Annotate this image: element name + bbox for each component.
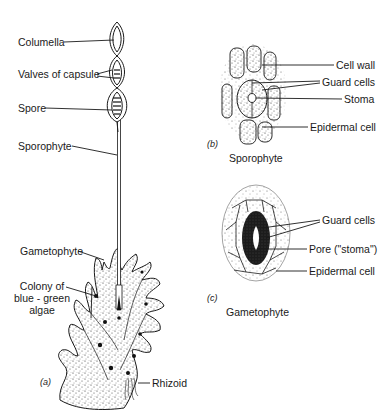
label-gametophyte: Gametophyte <box>20 245 83 257</box>
caption-c: (c) <box>207 293 218 303</box>
label-epidermal-cell-b: Epidermal cell <box>310 121 376 133</box>
label-colony-line2: blue - green <box>14 292 70 304</box>
label-stoma: Stoma <box>344 93 374 105</box>
label-sporophyte: Sporophyte <box>18 140 72 152</box>
label-pore-stoma: Pore ("stoma") <box>309 243 377 255</box>
label-rhizoid: Rhizoid <box>152 377 187 389</box>
gametophyte-epidermis <box>222 185 290 281</box>
label-colony-line1: Colony of <box>14 280 70 292</box>
hornwort-diagram <box>0 0 389 416</box>
capsule <box>107 22 127 132</box>
caption-b: (b) <box>207 139 218 149</box>
subtitle-gametophyte: Gametophyte <box>226 306 289 318</box>
label-valves-of-capsule: Valves of capsule <box>18 68 100 80</box>
label-spore: Spore <box>18 102 46 114</box>
gametophyte-thallus <box>59 248 164 410</box>
label-cell-wall: Cell wall <box>336 59 375 71</box>
label-colony-of-blue-green-algae: Colony of blue - green algae <box>14 280 70 316</box>
subtitle-sporophyte: Sporophyte <box>229 152 283 164</box>
label-colony-line3: algae <box>14 304 70 316</box>
label-columella: Columella <box>18 36 65 48</box>
label-epidermal-cell-c: Epidermal cell <box>309 265 375 277</box>
label-guard-cells-b: Guard cells <box>322 76 375 88</box>
caption-a: (a) <box>40 377 51 387</box>
label-guard-cells-c: Guard cells <box>322 214 375 226</box>
sporophyte-epidermis <box>219 44 287 144</box>
